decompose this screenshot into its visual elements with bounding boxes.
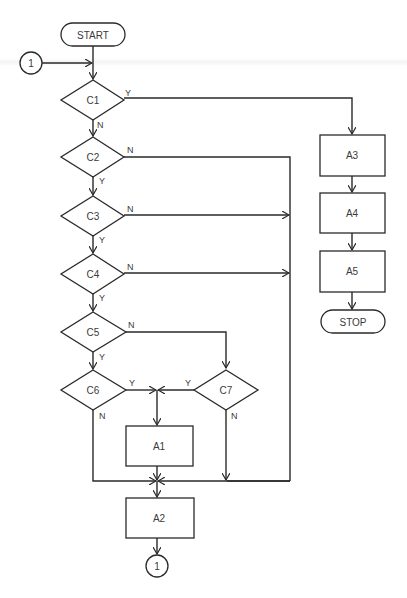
process-a2-label: A2 bbox=[153, 513, 166, 524]
start-label: START bbox=[77, 30, 109, 41]
exit-connector: 1 bbox=[146, 555, 168, 577]
c4-yes-label: Y bbox=[99, 293, 105, 303]
c6-no-label: N bbox=[99, 411, 106, 421]
stop-terminal: STOP bbox=[321, 310, 385, 333]
process-a1-label: A1 bbox=[153, 441, 166, 452]
decision-c2-label: C2 bbox=[87, 152, 100, 163]
c2-no-label: N bbox=[127, 145, 134, 155]
stop-label: STOP bbox=[339, 317, 366, 328]
decision-c1: C1 bbox=[61, 80, 124, 120]
c1-no-label: N bbox=[97, 120, 104, 130]
c2-yes-label: Y bbox=[99, 176, 105, 186]
c7-yes-label: Y bbox=[185, 378, 191, 388]
flowchart: START 1 C1 Y N C2 N Y C3 N Y C4 N Y C5 bbox=[0, 0, 407, 598]
c3-no-label: N bbox=[127, 204, 134, 214]
decision-c5-label: C5 bbox=[87, 327, 100, 338]
decision-c4: C4 bbox=[61, 254, 124, 294]
process-a4-label: A4 bbox=[346, 208, 359, 219]
decision-c3-label: C3 bbox=[87, 211, 100, 222]
decision-c6: C6 bbox=[61, 370, 126, 410]
c4-no-label: N bbox=[127, 262, 134, 272]
c3-yes-label: Y bbox=[99, 235, 105, 245]
process-a3: A3 bbox=[320, 135, 385, 176]
entry-connector-label: 1 bbox=[28, 58, 34, 69]
decision-c7: C7 bbox=[194, 370, 258, 410]
decision-c1-label: C1 bbox=[87, 95, 100, 106]
decision-c7-label: C7 bbox=[220, 385, 233, 396]
c5-yes-label: Y bbox=[99, 352, 105, 362]
c1-yes-arrow bbox=[124, 98, 352, 134]
process-a3-label: A3 bbox=[346, 150, 359, 161]
start-terminal: START bbox=[61, 23, 125, 46]
c6-yes-label: Y bbox=[129, 378, 135, 388]
process-a4: A4 bbox=[320, 193, 385, 233]
c7-no-label: N bbox=[231, 411, 238, 421]
exit-connector-label: 1 bbox=[154, 561, 160, 572]
process-a5: A5 bbox=[320, 251, 385, 292]
c5-no-label: N bbox=[128, 320, 135, 330]
process-a1: A1 bbox=[126, 426, 193, 466]
process-a5-label: A5 bbox=[346, 266, 359, 277]
decision-c4-label: C4 bbox=[87, 269, 100, 280]
decision-c6-label: C6 bbox=[87, 385, 100, 396]
entry-connector: 1 bbox=[20, 52, 42, 74]
c1-yes-label: Y bbox=[125, 88, 131, 98]
c5-no-arrow bbox=[126, 332, 226, 368]
decision-c5: C5 bbox=[61, 312, 126, 352]
decision-c2: C2 bbox=[61, 137, 124, 177]
decision-c3: C3 bbox=[61, 196, 124, 236]
process-a2: A2 bbox=[126, 498, 194, 538]
